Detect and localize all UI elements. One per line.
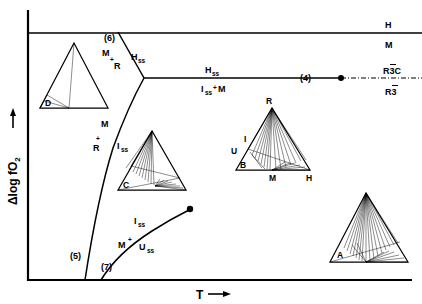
- svg-text:H: H: [205, 65, 212, 75]
- inset-a-label: A: [337, 250, 343, 260]
- field-label-iss-m: I ss + M: [201, 84, 226, 96]
- field-label-r-mid: R: [93, 143, 100, 153]
- svg-text:+: +: [213, 84, 217, 91]
- annotation-5: (5): [70, 251, 81, 261]
- svg-text:M: M: [218, 84, 226, 94]
- annotation-4: (4): [300, 73, 311, 83]
- svg-text:ss: ss: [205, 89, 213, 96]
- svg-text:ss: ss: [147, 247, 155, 254]
- field-label-m-upper: M: [102, 48, 110, 58]
- inset-c-label: C: [123, 180, 129, 190]
- svg-text:R3C: R3C: [383, 66, 402, 76]
- inset-b-vertex-m: M: [269, 173, 276, 183]
- field-label-r3: R3: [385, 86, 398, 98]
- svg-text:ss: ss: [212, 70, 220, 77]
- inset-triangle-c: C: [118, 131, 186, 190]
- inset-b-vertex-u: U: [231, 146, 237, 156]
- field-label-h-top: H: [385, 20, 392, 30]
- svg-text:R3: R3: [385, 87, 397, 97]
- field-label-hss-mid: H ss: [205, 65, 220, 77]
- svg-text:Δlog fO2: Δlog fO2: [6, 157, 22, 205]
- svg-text:ss: ss: [138, 57, 146, 64]
- inset-b-tielines: [250, 108, 310, 170]
- svg-text:U: U: [139, 242, 146, 252]
- field-label-plus-mid: +: [96, 135, 100, 142]
- phase-diagram-figure: D: [0, 0, 422, 304]
- diagram-canvas: D: [0, 0, 422, 304]
- field-label-r-upper: R: [114, 61, 121, 71]
- svg-text:ss: ss: [138, 221, 146, 228]
- field-label-r3c: R3C: [383, 65, 402, 77]
- inset-b-vertex-r: R: [266, 96, 272, 106]
- svg-text:T: T: [196, 288, 204, 302]
- field-label-m-lower: M: [118, 240, 126, 250]
- annotation-6: (6): [104, 33, 115, 43]
- field-label-iss-mid: I ss: [117, 141, 129, 153]
- svg-text:ss: ss: [121, 146, 129, 153]
- field-label-hss-upper: H ss: [131, 52, 146, 64]
- inset-d-label: D: [45, 98, 51, 108]
- svg-text:I: I: [117, 141, 120, 151]
- y-axis-title: Δlog fO2: [6, 108, 22, 205]
- critical-point-lower-dot: [187, 206, 193, 212]
- inset-triangle-a: A: [330, 193, 408, 262]
- x-axis-title: T: [196, 288, 231, 302]
- field-label-m-top: M: [385, 40, 393, 50]
- inset-a-tielines: [344, 193, 408, 262]
- inset-b-vertex-b: B: [240, 160, 246, 170]
- inset-triangle-b: R I U B M H: [231, 96, 312, 183]
- svg-text:H: H: [131, 52, 138, 62]
- field-label-m-mid: M: [101, 119, 109, 129]
- inset-b-vertex-h: H: [306, 173, 312, 183]
- annotation-7: (7): [101, 262, 112, 272]
- field-label-iss-lower: I ss: [134, 216, 146, 228]
- inset-triangle-d: D: [40, 43, 108, 108]
- field-labels: H M M + R H ss H ss I ss + M: [93, 20, 402, 254]
- field-label-uss: U ss: [139, 242, 155, 254]
- axis-frame: [28, 10, 412, 280]
- svg-text:I: I: [134, 216, 137, 226]
- inset-b-vertex-i: I: [244, 134, 246, 144]
- critical-point-4-dot: [338, 75, 344, 81]
- field-label-plus-lower: +: [128, 236, 132, 243]
- svg-text:I: I: [201, 84, 204, 94]
